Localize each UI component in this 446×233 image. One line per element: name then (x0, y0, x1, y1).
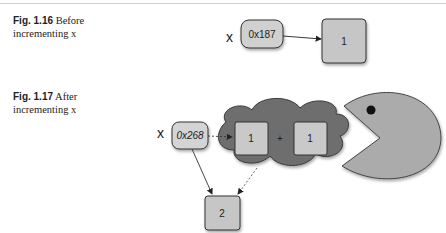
result-dashed-arrow (238, 168, 257, 194)
variable-label: x (226, 29, 233, 45)
operator-label: + (277, 133, 283, 144)
diagram-canvas: x 0x187 1 x 0x268 1 + 1 2 (0, 0, 446, 233)
pacman-eye (367, 106, 376, 115)
pointer-arrow (283, 36, 321, 39)
pointer-arrow (192, 149, 212, 194)
address-label: 0x268 (176, 130, 204, 141)
value-label: 1 (341, 36, 347, 47)
figure-1-17-diagram: x 0x268 1 + 1 2 (157, 92, 441, 230)
variable-label: x (157, 125, 164, 141)
result-label: 2 (219, 208, 225, 219)
pacman-shape (342, 92, 441, 178)
figure-1-16-diagram: x 0x187 1 (226, 19, 366, 63)
operand-right-label: 1 (307, 133, 313, 144)
address-label: 0x187 (248, 29, 276, 40)
operand-left-label: 1 (248, 133, 254, 144)
